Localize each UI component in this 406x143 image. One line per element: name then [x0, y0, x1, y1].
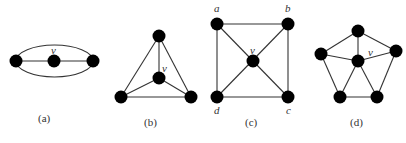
vertex-left	[315, 48, 328, 61]
vertex-label-c: c	[286, 104, 291, 116]
vertex-label-v: v	[368, 46, 373, 58]
edge	[321, 54, 340, 97]
graph-d: v (d)	[315, 25, 403, 130]
vertex-left	[10, 55, 23, 68]
edge	[377, 51, 396, 97]
vertex-top	[352, 25, 365, 38]
vertex-v	[247, 55, 260, 68]
vertex-right	[390, 45, 403, 58]
vertex-bottom-left	[115, 91, 128, 104]
vertex-label-v: v	[51, 44, 56, 56]
caption-c: (c)	[245, 116, 258, 129]
caption-d: (d)	[350, 116, 363, 129]
vertex-top	[153, 30, 166, 43]
caption-b: (b)	[144, 116, 157, 129]
vertex-label-b: b	[285, 2, 291, 14]
graph-c: a b v d c (c)	[211, 2, 295, 129]
edge	[321, 31, 358, 54]
vertex-a	[211, 18, 224, 31]
vertex-label-a: a	[214, 2, 220, 14]
vertex-bottom-right	[371, 91, 384, 104]
graph-a: v (a)	[10, 44, 100, 125]
graph-figure: v (a) v (b) a b v d c (c)	[0, 0, 406, 143]
vertex-bottom-right	[185, 91, 198, 104]
vertex-c	[282, 91, 295, 104]
vertex-label-v: v	[162, 62, 167, 74]
vertex-label-v: v	[250, 44, 255, 56]
vertex-label-d: d	[214, 104, 220, 116]
graph-b: v (b)	[115, 30, 198, 130]
caption-a: (a)	[38, 112, 51, 125]
vertex-right	[87, 55, 100, 68]
vertex-bottom-left	[334, 91, 347, 104]
vertex-d	[211, 91, 224, 104]
vertex-v	[48, 55, 61, 68]
vertex-v	[352, 55, 365, 68]
vertex-b	[282, 18, 295, 31]
